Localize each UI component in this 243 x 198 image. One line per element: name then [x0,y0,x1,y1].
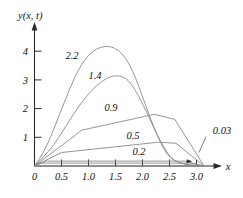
y-tick-label-2: 2 [23,103,29,114]
curve-label-0.9: 0.9 [104,102,118,113]
curve-t-2.2 [35,46,207,166]
x-tick-label-2.5: 2.5 [163,171,176,182]
x-tick-label-2.0: 2.0 [136,171,150,182]
curve-t-1.4 [35,76,205,166]
wave-plot-figure: 0 0.5 1.0 1.5 2.0 2.5 3.0 1 2 3 4 y(x, t… [0,0,243,198]
y-tick-label-4: 4 [23,46,29,57]
curve-label-1.4: 1.4 [88,70,102,81]
chart-canvas: 0 0.5 1.0 1.5 2.0 2.5 3.0 1 2 3 4 y(x, t… [0,0,243,198]
x-tick-label-0.5: 0.5 [55,171,68,182]
curve-t-0.9 [35,114,205,166]
x-axis-label: x [225,161,231,172]
y-tick-label-1: 1 [23,132,28,143]
leader-line-0.03 [199,137,206,153]
curve-label-0.5: 0.5 [126,130,139,141]
curve-label-0.03: 0.03 [213,125,231,136]
x-tick-label-0: 0 [32,171,38,182]
x-tick-label-3.0: 3.0 [189,171,204,182]
curve-label-2.2: 2.2 [65,50,79,61]
x-tick-label-1.0: 1.0 [82,171,96,182]
curve-label-0.2: 0.2 [132,146,146,157]
x-tick-label-1.5: 1.5 [109,171,122,182]
y-tick-label-3: 3 [22,75,28,86]
y-axis-label: y(x, t) [17,10,43,22]
x-axis-arrow-icon [214,163,223,169]
curve-t-0.03 [35,163,204,166]
y-axis-arrow-icon [32,22,38,31]
